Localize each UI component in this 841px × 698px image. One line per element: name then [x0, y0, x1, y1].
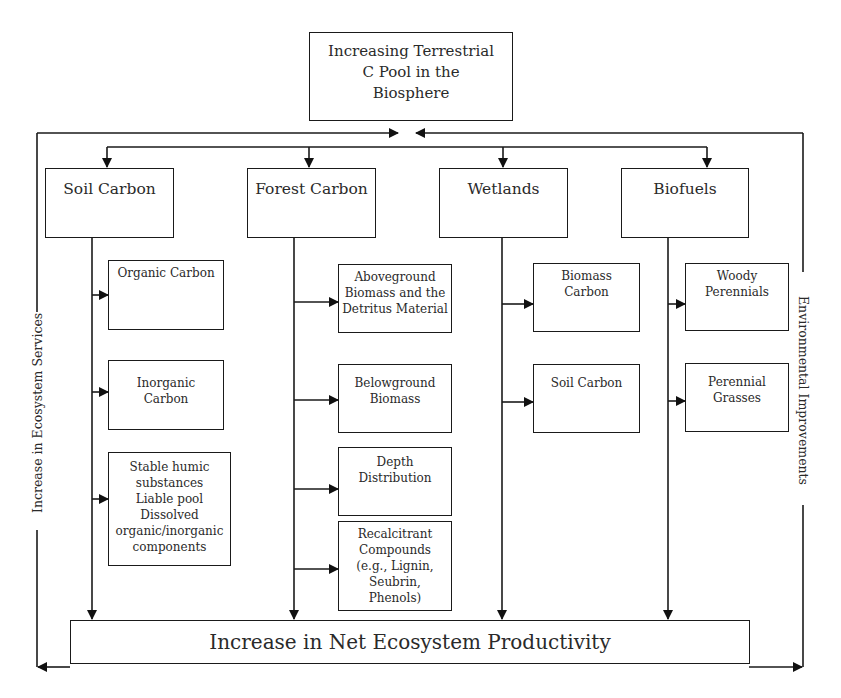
sub-label: Recalcitrant Compounds (e.g., Lignin, Se…	[339, 526, 451, 606]
category-biofuels: Biofuels	[621, 168, 749, 238]
top-node-terrestrial-c-pool: Increasing Terrestrial C Pool in the Bio…	[309, 32, 513, 121]
category-forest-carbon: Forest Carbon	[247, 168, 376, 238]
category-label: Biofuels	[622, 180, 748, 198]
sub-recalcitrant-compounds: Recalcitrant Compounds (e.g., Lignin, Se…	[338, 521, 452, 611]
sub-label: Depth Distribution	[339, 452, 451, 486]
sub-label: Biomass Carbon	[534, 268, 639, 300]
sub-label: Belowground Biomass	[339, 369, 451, 407]
sub-perennial-grasses: Perennial Grasses	[685, 363, 789, 432]
sub-organic-carbon: Organic Carbon	[108, 260, 224, 330]
sub-label: Soil Carbon	[534, 369, 639, 391]
sub-stable-humic: Stable humic substances Liable pool Diss…	[108, 452, 231, 566]
sub-label: Stable humic substances Liable pool Diss…	[109, 457, 230, 555]
sub-depth-distribution: Depth Distribution	[338, 447, 452, 516]
sub-label: Perennial Grasses	[686, 368, 788, 406]
sub-label: Inorganic Carbon	[109, 365, 223, 407]
sub-label: Woody Perennials	[686, 268, 788, 300]
top-node-label: Increasing Terrestrial C Pool in the Bio…	[310, 41, 512, 104]
sub-biomass-carbon: Biomass Carbon	[533, 263, 640, 332]
category-label: Forest Carbon	[248, 180, 375, 198]
category-label: Soil Carbon	[46, 180, 173, 198]
sub-label: Aboveground Biomass and the Detritus Mat…	[339, 269, 451, 317]
bottom-node-net-ecosystem-productivity: Increase in Net Ecosystem Productivity	[70, 620, 750, 664]
left-side-label: Increase in Ecosystem Services	[30, 328, 45, 513]
sub-aboveground-biomass: Aboveground Biomass and the Detritus Mat…	[338, 264, 452, 333]
sub-belowground-biomass: Belowground Biomass	[338, 364, 452, 433]
sub-label: Organic Carbon	[109, 265, 223, 281]
right-side-label: Environmental Improvements	[796, 296, 811, 481]
sub-wetland-soil-carbon: Soil Carbon	[533, 364, 640, 433]
bottom-node-label: Increase in Net Ecosystem Productivity	[71, 621, 749, 663]
sub-woody-perennials: Woody Perennials	[685, 263, 789, 331]
category-soil-carbon: Soil Carbon	[45, 168, 174, 238]
category-wetlands: Wetlands	[439, 168, 568, 238]
category-label: Wetlands	[440, 180, 567, 198]
sub-inorganic-carbon: Inorganic Carbon	[108, 360, 224, 430]
